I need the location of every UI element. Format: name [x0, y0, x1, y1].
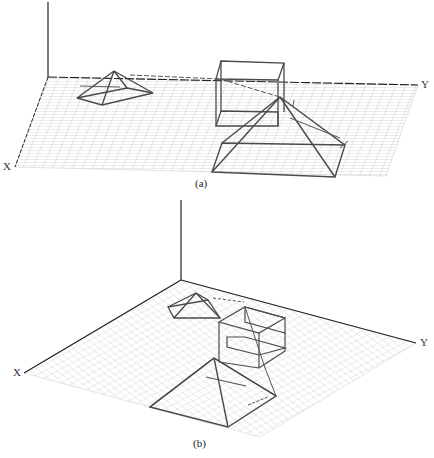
y-axis-label-b: Y [420, 337, 428, 348]
x-axis-label-b: X [13, 367, 21, 378]
ground-plane-b [24, 280, 416, 437]
caption-b: (b) [193, 438, 206, 449]
figure-b-scene [0, 0, 434, 458]
